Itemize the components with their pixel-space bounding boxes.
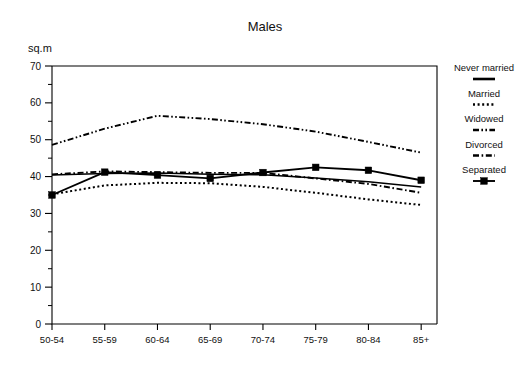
- y-tick-label: 70: [30, 61, 42, 72]
- series-marker: [207, 175, 214, 182]
- y-tick-label: 50: [30, 134, 42, 145]
- legend-marker-sample: [481, 178, 488, 185]
- x-tick-label: 60-64: [145, 334, 169, 345]
- y-axis-unit-label: sq.m: [28, 42, 52, 54]
- y-tick-label: 30: [30, 208, 42, 219]
- y-tick-label: 20: [30, 245, 42, 256]
- chart-figure: Males sq.m 010203040506070 50-5455-5960-…: [0, 0, 531, 367]
- y-tick-label: 10: [30, 282, 42, 293]
- legend-label: Married: [468, 88, 500, 99]
- x-tick-label: 65-69: [198, 334, 222, 345]
- legend-label: Divorced: [465, 139, 503, 150]
- x-tick-label: 80-84: [356, 334, 380, 345]
- legend-label: Never married: [454, 62, 514, 73]
- series-marker: [154, 172, 161, 179]
- series-marker: [260, 169, 267, 176]
- series-marker: [365, 167, 372, 174]
- y-tick-label: 0: [35, 319, 41, 330]
- x-tick-label: 70-74: [251, 334, 275, 345]
- x-tick-label: 50-54: [40, 334, 64, 345]
- y-tick-label: 40: [30, 171, 42, 182]
- x-tick-label: 55-59: [93, 334, 117, 345]
- x-tick-label: 85+: [413, 334, 430, 345]
- legend-label: Separated: [462, 164, 506, 175]
- y-tick-label: 60: [30, 97, 42, 108]
- legend-label: Widowed: [464, 113, 503, 124]
- chart-title: Males: [248, 19, 283, 34]
- series-marker: [49, 192, 56, 199]
- x-tick-label: 75-79: [304, 334, 328, 345]
- series-marker: [101, 169, 108, 176]
- series-marker: [418, 177, 425, 184]
- series-marker: [312, 164, 319, 171]
